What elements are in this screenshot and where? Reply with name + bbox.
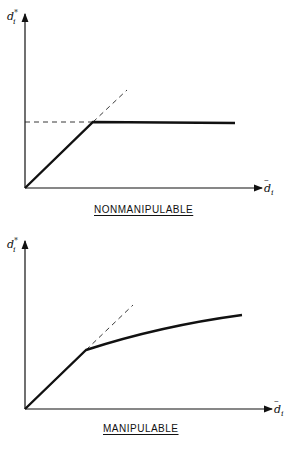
y-axis-label: d*i xyxy=(7,236,18,254)
caption-nonmanipulable: NONMANIPULABLE xyxy=(94,204,193,215)
response-curve xyxy=(25,315,242,409)
x-axis-tilde: ~ xyxy=(264,176,269,185)
y-axis-label: d*i xyxy=(7,8,18,26)
x-axis-tilde: ~ xyxy=(274,397,279,406)
panel-nonmanipulable: d*i di ~ xyxy=(7,8,274,197)
panel-manipulable: d*i di ~ xyxy=(7,236,284,418)
caption-manipulable: MANIPULABLE xyxy=(103,423,179,434)
response-curve xyxy=(25,122,235,188)
diagonal-dashed-extension xyxy=(93,90,127,122)
diagram-canvas: d*i di ~ d*i di ~ xyxy=(0,0,290,449)
